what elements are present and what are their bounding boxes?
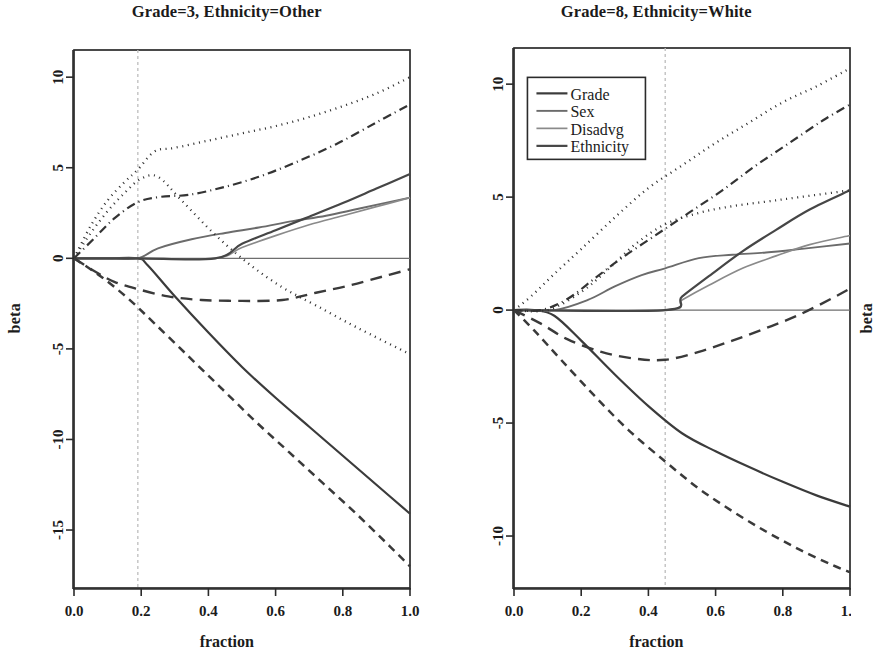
legend-label: Sex — [570, 103, 594, 120]
series-curve — [74, 258, 410, 566]
series-curve — [74, 198, 410, 259]
svg-text:0: 0 — [50, 255, 66, 263]
panel-left: Grade=3, Ethnicity=Other 0.00.20.40.60.8… — [0, 0, 426, 657]
svg-text:10: 10 — [50, 70, 66, 85]
series-curve — [514, 190, 850, 311]
svg-text:-10: -10 — [490, 526, 506, 546]
panel-right-x-axis-label: fraction — [444, 633, 870, 651]
legend-label: Grade — [570, 86, 609, 103]
svg-text:0: 0 — [490, 306, 506, 314]
svg-text:0.4: 0.4 — [639, 603, 658, 619]
series-curve — [74, 104, 410, 258]
svg-text:0.6: 0.6 — [706, 603, 725, 619]
legend-label: Ethnicity — [570, 138, 629, 156]
series-curve — [514, 236, 850, 311]
svg-text:-10: -10 — [50, 429, 66, 449]
svg-text:0.8: 0.8 — [773, 603, 792, 619]
svg-text:-15: -15 — [50, 520, 66, 540]
svg-text:0.2: 0.2 — [132, 603, 151, 619]
svg-text:0.2: 0.2 — [571, 603, 590, 619]
svg-text:1.0: 1.0 — [840, 603, 851, 619]
panel-left-y-axis-label: beta — [6, 303, 24, 334]
svg-text:-5: -5 — [50, 343, 66, 356]
svg-text:5: 5 — [50, 164, 66, 172]
svg-text:1.0: 1.0 — [401, 603, 420, 619]
svg-text:5: 5 — [490, 193, 506, 201]
series-curve — [514, 310, 850, 572]
panel-right: Grade=8, Ethnicity=White 0.00.20.40.60.8… — [426, 0, 852, 657]
panel-right-plot: 0.00.20.40.60.81.01050-5-10GradeSexDisad… — [426, 0, 852, 657]
svg-text:0.0: 0.0 — [504, 603, 523, 619]
svg-text:10: 10 — [490, 77, 506, 92]
panel-right-y-axis-label: beta — [858, 303, 876, 334]
panel-left-plot: 0.00.20.40.60.81.01050-5-10-15 — [0, 0, 426, 657]
series-curve — [514, 190, 850, 311]
series-curve — [74, 198, 410, 259]
chart-legend: GradeSexDisadvgEthnicity — [527, 77, 645, 159]
legend-label: Disadvg — [570, 121, 623, 139]
series-curve — [74, 258, 410, 514]
svg-text:0.4: 0.4 — [199, 603, 218, 619]
svg-text:0.6: 0.6 — [266, 603, 285, 619]
svg-text:0.0: 0.0 — [65, 603, 84, 619]
series-curve — [74, 175, 410, 354]
svg-text:-5: -5 — [490, 417, 506, 430]
series-curve — [514, 310, 850, 507]
panel-left-x-axis-label: fraction — [14, 633, 440, 651]
svg-text:0.8: 0.8 — [333, 603, 352, 619]
